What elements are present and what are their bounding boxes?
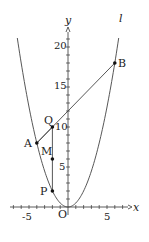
label-a: A [23, 137, 33, 150]
label-m: M [41, 145, 52, 158]
label-q: Q [44, 114, 53, 127]
point-b [113, 61, 117, 65]
segment-aq [37, 127, 53, 143]
coordinate-diagram: A B Q M P O x y l -5 5 5 10 15 20 [0, 0, 149, 242]
y-tick-label-10: 10 [55, 121, 68, 132]
x-tick-label-neg5: -5 [22, 211, 32, 222]
y-axis-label: y [64, 14, 72, 27]
label-b: B [118, 57, 126, 70]
point-a [35, 141, 39, 145]
y-tick-label-5: 5 [59, 161, 65, 172]
x-axis-label: x [133, 201, 140, 214]
line-l-label: l [119, 12, 123, 25]
x-axis [10, 205, 132, 209]
x-tick-label-5: 5 [104, 211, 110, 222]
y-tick-label-20: 20 [54, 40, 67, 51]
label-p: P [40, 185, 48, 198]
point-p [51, 189, 55, 193]
y-tick-label-15: 15 [54, 80, 67, 91]
label-origin: O [58, 208, 67, 221]
